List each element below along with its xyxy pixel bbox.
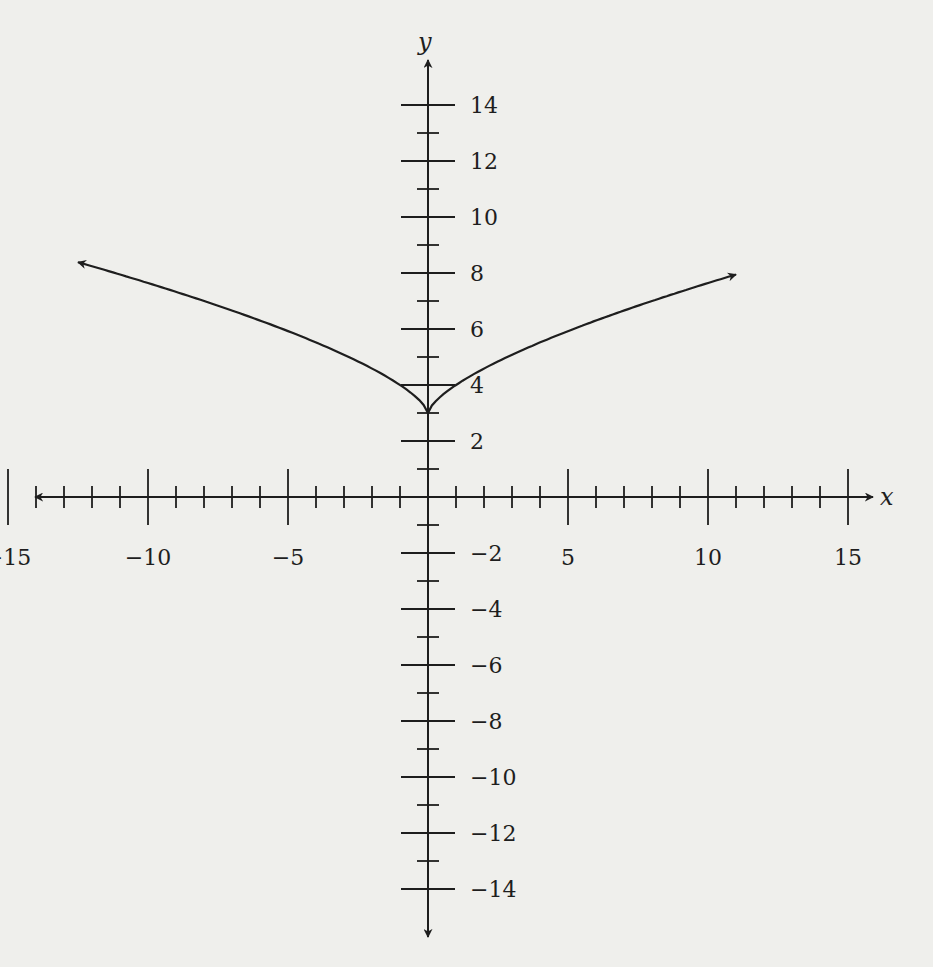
y-tick-label: −6 (470, 653, 502, 678)
coordinate-plane: −15−10−5510151412108642−2−4−6−8−10−12−14… (0, 0, 933, 967)
y-tick-label: 10 (470, 205, 498, 230)
y-tick-label: 6 (470, 317, 484, 342)
x-tick-label: −5 (272, 545, 304, 570)
plotted-curve (78, 262, 736, 413)
y-tick-label: −8 (470, 709, 502, 734)
y-axis-label: y (417, 28, 432, 56)
x-tick-label: −10 (125, 545, 171, 570)
x-tick-label: 10 (694, 545, 722, 570)
x-tick-label: −15 (0, 545, 31, 570)
y-tick-label: 8 (470, 261, 484, 286)
y-tick-label: 4 (470, 373, 484, 398)
axes (35, 60, 873, 937)
y-tick-label: −2 (470, 541, 502, 566)
y-tick-label: 2 (470, 429, 484, 454)
x-tick-label: 15 (834, 545, 862, 570)
y-tick-label: 14 (470, 93, 498, 118)
curve-left-branch (78, 262, 428, 413)
y-tick-label: −4 (470, 597, 502, 622)
x-tick-label: 5 (561, 545, 575, 570)
y-tick-label: −14 (470, 877, 516, 902)
graph-figure: −15−10−5510151412108642−2−4−6−8−10−12−14… (0, 0, 933, 967)
x-axis-label: x (880, 483, 894, 511)
y-tick-label: 12 (470, 149, 498, 174)
y-tick-label: −10 (470, 765, 516, 790)
y-tick-label: −12 (470, 821, 516, 846)
